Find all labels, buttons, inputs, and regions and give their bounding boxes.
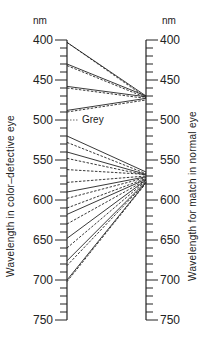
left-unit-label: nm xyxy=(33,15,47,26)
match-line xyxy=(67,180,146,224)
tick-label: 450 xyxy=(33,73,53,87)
left-axis: 400450500550600650700750 xyxy=(33,33,67,327)
tick-label: 500 xyxy=(160,113,180,127)
tick-label: 600 xyxy=(33,193,53,207)
match-line xyxy=(67,100,146,112)
wavelength-match-diagram: nm nm 400450500550600650700750 400450500… xyxy=(0,0,212,343)
tick-label: 700 xyxy=(160,273,180,287)
match-line xyxy=(67,183,146,281)
tick-label: 500 xyxy=(33,113,53,127)
tick-label: 400 xyxy=(33,33,53,47)
tick-label: 450 xyxy=(160,73,180,87)
right-axis: 400450500550600650700750 xyxy=(146,33,180,327)
tick-label: 550 xyxy=(33,153,53,167)
match-line xyxy=(67,170,146,175)
match-line xyxy=(67,181,146,248)
grey-label: Grey xyxy=(82,114,104,125)
tick-label: 400 xyxy=(160,33,180,47)
right-unit-label: nm xyxy=(162,15,176,26)
left-axis-title: Wavelength in color–defective eye xyxy=(5,115,16,277)
tick-label: 650 xyxy=(160,233,180,247)
match-lines xyxy=(67,42,146,281)
match-line xyxy=(67,152,146,174)
match-line xyxy=(67,142,146,173)
right-axis-title: Wavelength for match in normal eye xyxy=(187,111,198,281)
tick-label: 750 xyxy=(160,313,180,327)
tick-label: 550 xyxy=(160,153,180,167)
match-line xyxy=(67,98,146,110)
tick-label: 750 xyxy=(33,313,53,327)
tick-label: 600 xyxy=(160,193,180,207)
tick-label: 700 xyxy=(33,273,53,287)
tick-label: 650 xyxy=(33,233,53,247)
